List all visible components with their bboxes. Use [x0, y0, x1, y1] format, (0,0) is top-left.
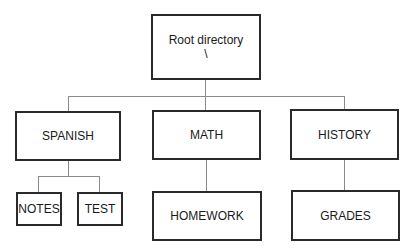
grades-folder-node: GRADES — [291, 190, 400, 241]
connector-math — [205, 96, 206, 110]
connector-root-down — [205, 79, 206, 97]
root-label: Root directory — [169, 33, 244, 47]
test-label: TEST — [85, 202, 116, 216]
homework-folder-node: HOMEWORK — [152, 191, 262, 241]
math-label: MATH — [190, 128, 223, 142]
math-folder-node: MATH — [152, 110, 261, 160]
connector-spanish — [68, 96, 69, 111]
spanish-label: SPANISH — [42, 129, 94, 143]
connector-test — [99, 176, 100, 192]
notes-folder-node: NOTES — [16, 192, 62, 226]
history-folder-node: HISTORY — [290, 109, 399, 160]
connector-notes — [38, 176, 39, 192]
connector-spanish-down — [68, 160, 69, 176]
root-backslash: \ — [204, 47, 207, 61]
connector-level1-bus — [68, 96, 345, 97]
history-label: HISTORY — [318, 128, 371, 142]
connector-history — [344, 96, 345, 110]
root-directory-node: Root directory \ — [151, 14, 261, 80]
connector-spanish-bus — [38, 176, 100, 177]
connector-history-grades — [344, 159, 345, 190]
notes-label: NOTES — [18, 202, 59, 216]
connector-math-homework — [206, 159, 207, 191]
grades-label: GRADES — [320, 209, 371, 223]
test-folder-node: TEST — [77, 192, 123, 226]
spanish-folder-node: SPANISH — [15, 111, 121, 161]
homework-label: HOMEWORK — [170, 209, 243, 223]
